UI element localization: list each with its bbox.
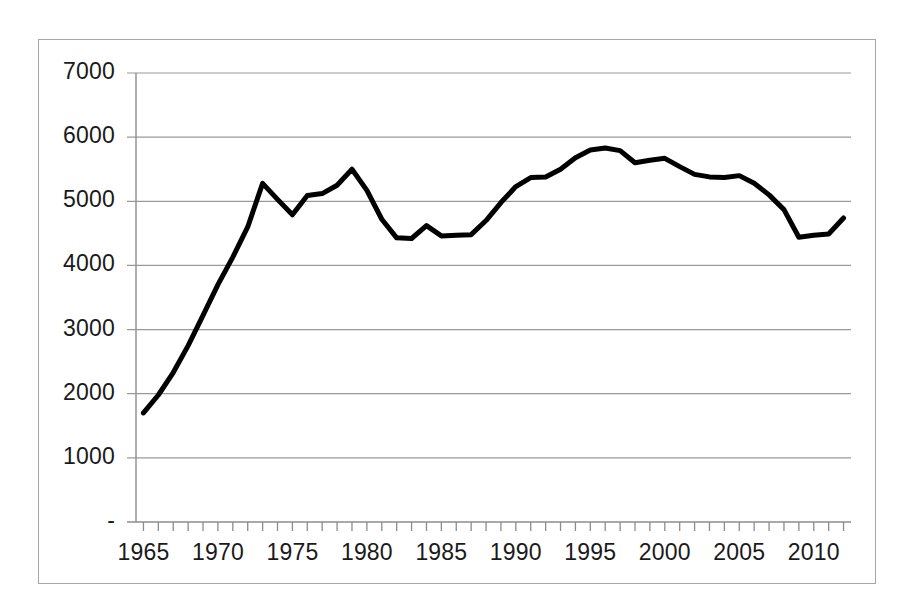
x-tick-label-2010: 2010 (774, 539, 854, 566)
x-tick-label-1990: 1990 (476, 539, 556, 566)
data-line-series-1 (143, 148, 843, 413)
y-tick-label-5000: 5000 (31, 186, 115, 213)
x-minor-ticks-group (143, 522, 843, 531)
x-tick-label-1970: 1970 (178, 539, 258, 566)
x-tick-label-2000: 2000 (625, 539, 705, 566)
x-tick-label-1995: 1995 (550, 539, 630, 566)
y-tick-label-7000: 7000 (31, 58, 115, 85)
x-tick-label-2005: 2005 (699, 539, 779, 566)
x-tick-label-1980: 1980 (327, 539, 407, 566)
x-tick-label-1975: 1975 (252, 539, 332, 566)
x-tick-label-1965: 1965 (103, 539, 183, 566)
y-tick-label-2000: 2000 (31, 379, 115, 406)
chart-plot-frame: 7000600050004000300020001000- 1965197019… (38, 39, 876, 584)
y-tick-label-6000: 6000 (31, 122, 115, 149)
chart-figure: 7000600050004000300020001000- 1965197019… (0, 0, 916, 613)
y-tick-label-3000: 3000 (31, 315, 115, 342)
x-tick-label-1985: 1985 (401, 539, 481, 566)
y-tick-label-0: - (31, 507, 115, 534)
chart-canvas (39, 40, 877, 585)
y-tick-label-4000: 4000 (31, 250, 115, 277)
axes-group (127, 73, 851, 522)
gridlines-group (127, 73, 851, 458)
y-tick-label-1000: 1000 (31, 443, 115, 470)
